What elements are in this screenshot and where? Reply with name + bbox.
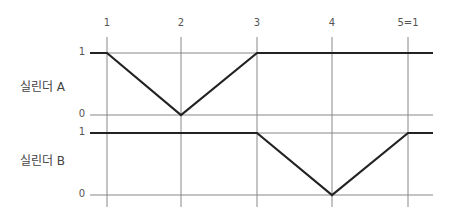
cylinder-a-signal <box>90 53 433 115</box>
step-label-1: 1 <box>104 17 110 28</box>
cylinder-b-level-0: 0 <box>71 188 85 199</box>
cylinder-b-level-1: 1 <box>71 126 85 137</box>
level-gridlines <box>90 53 433 195</box>
step-label-4: 4 <box>329 17 335 28</box>
cylinder-b-label: 실린더 B <box>20 151 65 168</box>
diagram-grid <box>0 0 453 224</box>
step-label-5: 5=1 <box>397 17 418 28</box>
step-label-3: 3 <box>254 17 260 28</box>
cylinder-a-level-1: 1 <box>71 46 85 57</box>
cylinder-b-signal <box>90 133 433 195</box>
step-label-2: 2 <box>178 17 184 28</box>
cylinder-a-label: 실린더 A <box>20 77 65 94</box>
cylinder-a-level-0: 0 <box>71 108 85 119</box>
step-gridlines <box>107 37 408 207</box>
